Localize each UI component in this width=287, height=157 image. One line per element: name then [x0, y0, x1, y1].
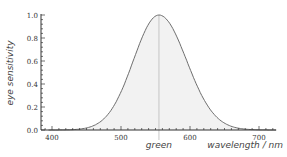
x-tick-label: 400 [45, 134, 58, 142]
y-tick-labels: 0.00.20.40.60.81.0 [27, 12, 39, 135]
y-tick-label: 0.0 [27, 127, 38, 135]
y-tick-label: 0.8 [27, 35, 38, 43]
y-tick-label: 1.0 [27, 12, 38, 20]
eye-sensitivity-chart: 0.00.20.40.60.81.0 400500600700 eye sens… [0, 0, 287, 157]
y-tick-label: 0.4 [27, 81, 39, 89]
x-axis-title: wavelength / nm [207, 140, 283, 150]
y-axis-title: eye sensitivity [5, 40, 15, 106]
x-tick-label: 500 [114, 134, 127, 142]
green-annotation: green [146, 140, 172, 150]
curve-fill [49, 15, 277, 130]
x-tick-label: 600 [183, 134, 196, 142]
y-tick-label: 0.6 [27, 58, 39, 66]
y-tick-label: 0.2 [27, 104, 38, 112]
